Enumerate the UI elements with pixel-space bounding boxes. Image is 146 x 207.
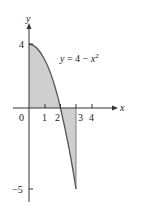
x-tick-0: 0	[19, 112, 24, 123]
x-axis-label: x	[119, 102, 125, 113]
y-axis-label: y	[25, 13, 31, 24]
y-tick-4: 4	[19, 39, 24, 50]
x-tick-3: 3	[78, 112, 83, 123]
x-tick-4: 4	[89, 112, 94, 123]
x-axis-arrow-icon	[112, 106, 118, 111]
shaded-area	[29, 44, 76, 189]
y-tick-neg5: −5	[12, 184, 23, 195]
function-annotation: y = 4 − x2	[59, 52, 99, 64]
x-tick-1: 1	[42, 112, 47, 123]
chart: y x 0 1 2 3 4 4 −5 y = 4 − x2	[0, 0, 146, 207]
x-tick-2: 2	[55, 112, 60, 123]
